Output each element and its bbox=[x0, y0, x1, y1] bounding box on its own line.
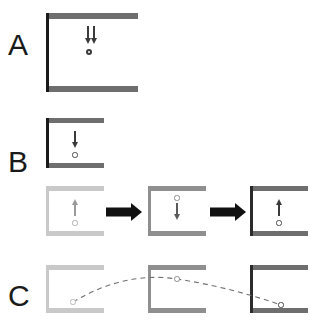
frame-b2-1-top-beam bbox=[46, 186, 104, 191]
frame-c-1 bbox=[46, 265, 104, 313]
force-arrow-b2-2 bbox=[174, 203, 181, 220]
frame-b2-2-left-column bbox=[148, 186, 151, 236]
frame-b2-1-bottom-beam bbox=[46, 231, 104, 236]
ball-c-1 bbox=[70, 299, 75, 304]
frame-b1-top-beam bbox=[46, 118, 104, 123]
frame-b2-2-top-beam bbox=[148, 186, 206, 191]
panel-label-c: C bbox=[8, 281, 30, 311]
frame-c-2-left-column bbox=[148, 265, 151, 313]
ball-b2-1 bbox=[72, 220, 77, 225]
ball-b2-2 bbox=[174, 195, 179, 200]
frame-a-bottom-beam bbox=[46, 86, 138, 92]
transition-arrow-1 bbox=[106, 203, 142, 221]
frame-c-3-left-column bbox=[250, 265, 253, 313]
panel-label-b: B bbox=[8, 147, 28, 177]
force-arrow-b2-1 bbox=[72, 199, 79, 216]
force-arrow-b2-3 bbox=[276, 199, 283, 216]
frame-c-2-bottom-beam bbox=[148, 308, 206, 313]
frame-c-3-top-beam bbox=[250, 265, 308, 270]
frame-b2-3-bottom-beam bbox=[250, 231, 308, 236]
frame-c-2-top-beam bbox=[148, 265, 206, 270]
force-arrow-a-2 bbox=[90, 26, 97, 44]
ball-b1 bbox=[72, 152, 77, 157]
frame-a-top-beam bbox=[46, 13, 138, 19]
ball-c-3 bbox=[278, 302, 283, 307]
frame-c-1-left-column bbox=[46, 265, 49, 313]
frame-b2-3-left-column bbox=[250, 186, 253, 236]
frame-a bbox=[46, 13, 138, 92]
panel-label-a: A bbox=[8, 30, 28, 60]
frame-b1-left-column bbox=[46, 118, 49, 168]
frame-c-3-bottom-beam bbox=[250, 308, 308, 313]
figure-canvas: A B bbox=[0, 0, 317, 324]
frame-a-left-column bbox=[46, 13, 49, 92]
frame-b2-1-left-column bbox=[46, 186, 49, 236]
ball-c-2 bbox=[174, 276, 180, 282]
frame-c-2 bbox=[148, 265, 206, 313]
transition-arrow-2 bbox=[210, 203, 246, 221]
force-arrow-b1 bbox=[72, 131, 79, 148]
frame-c-1-top-beam bbox=[46, 265, 104, 270]
ball-b2-3 bbox=[276, 220, 281, 225]
frame-b1-bottom-beam bbox=[46, 163, 104, 168]
frame-b2-2-bottom-beam bbox=[148, 231, 206, 236]
frame-c-1-bottom-beam bbox=[46, 308, 104, 313]
frame-b2-3-top-beam bbox=[250, 186, 308, 191]
